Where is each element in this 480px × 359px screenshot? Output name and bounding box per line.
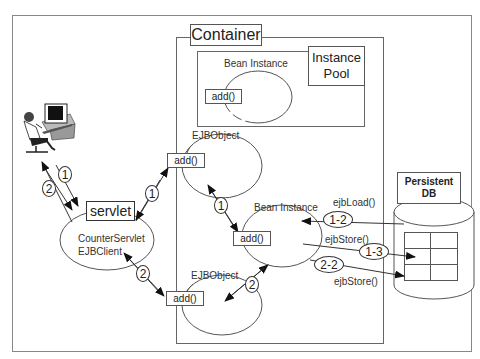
step-servlet-ejb-2: 2 <box>136 265 150 282</box>
ejbstore-label-1: ejbStore() <box>325 234 369 245</box>
step-store-1-3: 1-3 <box>359 243 389 260</box>
pool-bean-method: add() <box>205 89 242 104</box>
container-label: Container <box>190 24 262 46</box>
step-ejb-bean-1: 1 <box>214 197 228 214</box>
db-label-line1: Persistent <box>405 176 453 188</box>
step-servlet-ejb-1: 1 <box>145 185 159 202</box>
servlet-label: servlet <box>86 201 135 221</box>
step-load-1-2: 1-2 <box>323 211 353 228</box>
pool-bean-label: Bean Instance <box>224 58 288 69</box>
bean-instance-label: Bean Instance <box>254 202 318 213</box>
step-store-2-2: 2-2 <box>314 256 344 273</box>
ejbobject-top-label: EJBObject <box>192 130 239 141</box>
step-user-2: 2 <box>42 180 56 197</box>
servlet-client-line1: CounterServlet <box>78 232 145 245</box>
ejbobject-top-method: add() <box>167 153 205 168</box>
ejbload-label: ejbLoad() <box>333 197 375 208</box>
ejbstore-label-2: ejbStore() <box>334 276 378 287</box>
ejbobject-bottom-label: EJBObject <box>191 270 238 281</box>
bean-instance-method: add() <box>233 231 271 246</box>
persistent-db-label: Persistent DB <box>397 172 461 204</box>
step-ejb-bean-2: 2 <box>245 276 259 293</box>
instance-pool-label: Instance Pool <box>308 46 365 86</box>
container-label-text: Container <box>191 26 260 44</box>
servlet-client-line2: EJBClient <box>78 245 145 258</box>
servlet-client: CounterServlet EJBClient <box>78 232 145 258</box>
ejbobject-bottom-method: add() <box>166 291 204 306</box>
db-label-line2: DB <box>422 188 436 200</box>
step-user-1: 1 <box>58 166 72 183</box>
